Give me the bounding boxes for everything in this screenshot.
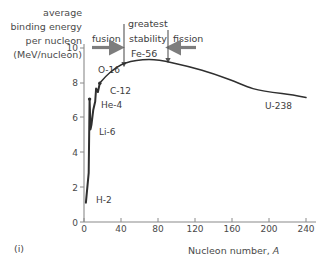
- plot-canvas: [0, 0, 318, 271]
- binding-energy-curve-figure: average binding energy per nucleon (MeV/…: [0, 0, 318, 271]
- axis-lines: [84, 44, 316, 222]
- y-axis-ticks: [80, 48, 84, 222]
- binding-energy-curve: [86, 60, 306, 203]
- x-axis-ticks: [84, 218, 306, 222]
